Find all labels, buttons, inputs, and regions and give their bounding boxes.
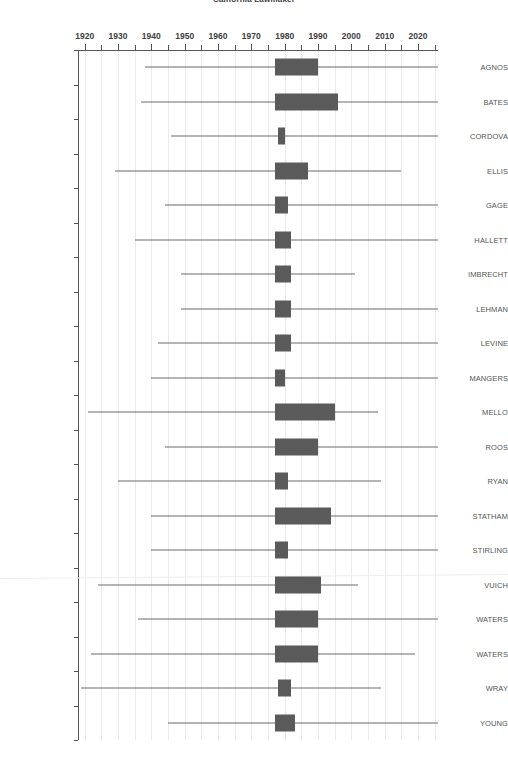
y-axis-category-label: RYAN [440, 477, 508, 486]
boxplot-whisker [81, 688, 381, 689]
boxplot-box [275, 576, 322, 593]
boxplot-whisker [118, 481, 381, 482]
boxplot-box [278, 680, 291, 697]
x-axis-tick-label: 2020 [409, 31, 428, 41]
boxplot-whisker [91, 653, 414, 654]
x-axis-tick-label: 1990 [309, 31, 328, 41]
boxplot-whisker [151, 550, 438, 551]
x-axis-tick-label: 1960 [209, 31, 228, 41]
y-axis-category-label: MANGERS [440, 373, 508, 382]
boxplot-whisker [181, 274, 354, 275]
boxplot-box [275, 197, 288, 214]
y-axis-category-label: STIRLING [440, 546, 508, 555]
boxplot-box [275, 714, 295, 731]
y-axis-category-label: BATES [440, 97, 508, 106]
y-axis-category-label: LEHMAN [440, 304, 508, 313]
y-axis-category-label: WRAY [440, 684, 508, 693]
boxplot-box [275, 300, 292, 317]
boxplot-box [275, 507, 332, 524]
y-axis-category-label: GAGE [440, 201, 508, 210]
boxplot-whisker [181, 308, 438, 309]
y-axis-category-label: MELLO [440, 408, 508, 417]
boxplot-box [275, 473, 288, 490]
boxplot-box [275, 369, 285, 386]
x-axis-tick-label: 2010 [375, 31, 394, 41]
boxplot-box [275, 645, 318, 662]
boxplot-box [275, 231, 292, 248]
boxplot-box [275, 438, 318, 455]
boxplot-whisker [168, 722, 438, 723]
y-axis-category-label: STATHAM [440, 511, 508, 520]
y-axis-category-label: YOUNG [440, 718, 508, 727]
x-axis-tick-label: 1970 [242, 31, 261, 41]
boxplot-whisker [171, 136, 438, 137]
y-axis-category-label: ROOS [440, 442, 508, 451]
boxplot-box [275, 335, 292, 352]
chart-title: California Lawmaker [0, 0, 508, 4]
y-axis-category-label: LEVINE [440, 339, 508, 348]
x-axis-tick-label: 1920 [75, 31, 94, 41]
plot-area [78, 50, 438, 740]
boxplot-chart: California Lawmaker 19201930194019501960… [0, 0, 508, 775]
x-axis-tick-label: 1950 [175, 31, 194, 41]
boxplot-box [278, 128, 285, 145]
boxplot-whisker [165, 205, 438, 206]
x-axis-tick-label: 2000 [342, 31, 361, 41]
y-axis-category-label: ELLIS [440, 166, 508, 175]
y-axis-category-label: CORDOVA [440, 132, 508, 141]
y-axis-category-label: VUICH [440, 580, 508, 589]
y-axis-category-label: AGNOS [440, 63, 508, 72]
x-axis-tick-label: 1930 [109, 31, 128, 41]
boxplot-whisker [115, 170, 402, 171]
y-axis-tick [74, 740, 78, 741]
boxplot-box [275, 404, 335, 421]
boxplot-box [275, 93, 338, 110]
x-axis-tick-label: 1980 [275, 31, 294, 41]
y-axis-category-label: IMBRECHT [440, 270, 508, 279]
y-axis-category-label: WATERS [440, 649, 508, 658]
boxplot-box [275, 59, 318, 76]
boxplot-whisker [158, 343, 438, 344]
boxplot-box [275, 266, 292, 283]
boxplot-box [275, 611, 318, 628]
boxplot-box [275, 542, 288, 559]
boxplot-whisker [151, 377, 438, 378]
y-axis-category-label: HALLETT [440, 235, 508, 244]
x-axis-tick-label: 1940 [142, 31, 161, 41]
y-axis-category-label: WATERS [440, 615, 508, 624]
boxplot-box [275, 162, 308, 179]
